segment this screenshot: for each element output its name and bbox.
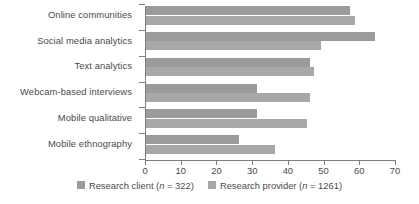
y-axis-tick — [139, 4, 145, 5]
legend-label-prefix: Research client ( — [89, 180, 159, 191]
legend-label: Research provider (n = 1261) — [220, 180, 342, 191]
y-axis-tick — [139, 30, 145, 31]
legend-label-suffix: = 322) — [164, 180, 193, 191]
category-label: Mobile ethnography — [0, 138, 132, 149]
x-axis-tick-label: 10 — [168, 165, 194, 176]
category-label: Mobile qualitative — [0, 112, 132, 123]
category-label: Webcam-based interviews — [0, 86, 132, 97]
category-axis-labels: Online communitiesSocial media analytics… — [0, 5, 138, 160]
grouped-horizontal-bar-chart: Online communitiesSocial media analytics… — [0, 0, 419, 204]
bar-0-5 — [146, 135, 239, 144]
y-axis-tick — [139, 107, 145, 108]
x-axis-tick-label: 60 — [346, 165, 372, 176]
y-axis-tick — [139, 56, 145, 57]
bar-1-0 — [146, 16, 355, 25]
legend-swatch-icon — [208, 181, 216, 189]
x-axis-tick-label: 70 — [382, 165, 408, 176]
bar-0-1 — [146, 32, 375, 41]
bar-1-2 — [146, 67, 314, 76]
plot-area: Online communitiesSocial media analytics… — [0, 0, 419, 168]
x-axis-tick-label: 30 — [239, 165, 265, 176]
legend-label-suffix: = 1261) — [307, 180, 342, 191]
x-axis-tick-label: 50 — [311, 165, 337, 176]
bar-1-3 — [146, 93, 310, 102]
legend-item-1[interactable]: Research provider (n = 1261) — [208, 180, 342, 191]
x-axis-tick-label: 20 — [203, 165, 229, 176]
legend-item-0[interactable]: Research client (n = 322) — [77, 180, 194, 191]
y-axis-tick — [139, 159, 145, 160]
bar-1-1 — [146, 41, 321, 50]
category-label: Social media analytics — [0, 35, 132, 46]
bar-1-4 — [146, 119, 307, 128]
legend-swatch-icon — [77, 181, 85, 189]
bar-0-4 — [146, 109, 257, 118]
category-label: Text analytics — [0, 60, 132, 71]
chart-legend: Research client (n = 322)Research provid… — [0, 178, 419, 192]
category-label: Online communities — [0, 9, 132, 20]
x-axis-tick-label: 40 — [275, 165, 301, 176]
bars-container — [146, 6, 396, 161]
y-axis-tick — [139, 82, 145, 83]
bar-0-0 — [146, 6, 350, 15]
bar-0-2 — [146, 58, 310, 67]
x-axis-tick-label: 0 — [132, 165, 158, 176]
y-axis-tick — [139, 133, 145, 134]
bar-0-3 — [146, 84, 257, 93]
legend-label: Research client (n = 322) — [89, 180, 194, 191]
bar-1-5 — [146, 145, 275, 154]
legend-label-prefix: Research provider ( — [220, 180, 302, 191]
